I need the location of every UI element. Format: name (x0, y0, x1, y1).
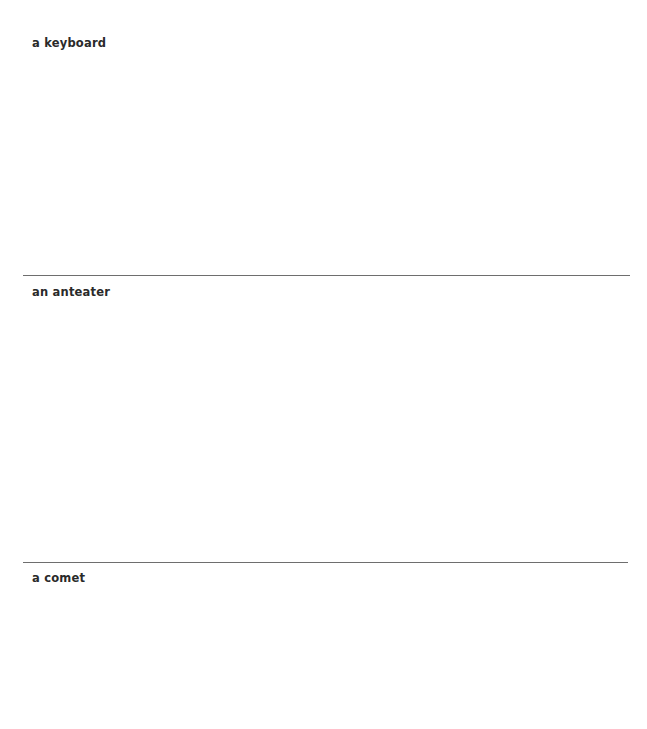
divider (23, 562, 628, 563)
section-label: a keyboard (32, 36, 106, 50)
section-label: an anteater (32, 285, 110, 299)
divider (23, 275, 630, 276)
section-label: a comet (32, 571, 85, 585)
